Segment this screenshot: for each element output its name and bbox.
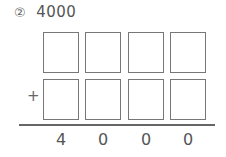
answer-box-row2-col4[interactable]	[170, 79, 206, 120]
result-digit-thousands: 4	[43, 130, 79, 149]
plus-sign: +	[27, 87, 40, 105]
result-digit-ones: 0	[170, 130, 206, 149]
answer-box-row2-col2[interactable]	[85, 79, 121, 120]
problem-number: ②	[14, 5, 26, 20]
answer-box-row2-col1[interactable]	[43, 79, 79, 120]
answer-box-row2-col3[interactable]	[128, 79, 164, 120]
sum-line	[19, 124, 215, 126]
answer-box-row1-col2[interactable]	[85, 32, 121, 73]
answer-box-row1-col3[interactable]	[128, 32, 164, 73]
answer-box-row1-col4[interactable]	[170, 32, 206, 73]
problem-value: 4000	[36, 3, 76, 21]
problem-label: ②4000	[14, 3, 76, 21]
result-digit-hundreds: 0	[85, 130, 121, 149]
answer-box-row1-col1[interactable]	[43, 32, 79, 73]
result-digit-tens: 0	[128, 130, 164, 149]
